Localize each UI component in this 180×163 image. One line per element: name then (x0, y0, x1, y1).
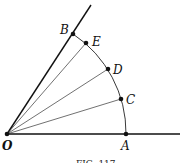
segment-oe (7, 43, 86, 134)
label-d: D (112, 63, 123, 77)
point-b (71, 32, 76, 37)
segment-od (7, 69, 108, 134)
ray-ob (7, 5, 91, 134)
label-b: B (59, 23, 69, 37)
figure-caption: FIG. 117 (76, 159, 116, 163)
label-e: E (91, 35, 101, 49)
segment-oc (7, 99, 121, 134)
label-c: C (126, 93, 135, 107)
geometry-figure: O A B E D C FIG. 117 (0, 0, 180, 163)
label-a: A (120, 139, 130, 153)
point-c (119, 97, 124, 102)
point-d (106, 67, 111, 72)
point-a (124, 132, 129, 137)
label-o: O (2, 139, 13, 153)
point-o (5, 132, 10, 137)
point-e (84, 41, 89, 46)
